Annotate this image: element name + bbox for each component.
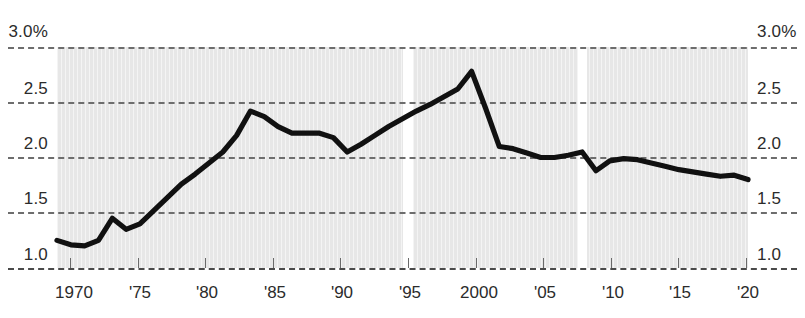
- x-axis-label-2005: '05: [534, 283, 556, 303]
- x-axis-label-2015: '15: [669, 283, 691, 303]
- data-line-value: [57, 71, 748, 246]
- x-axis-label-1970: 1970: [55, 283, 93, 303]
- x-axis-label-1980: '80: [196, 283, 218, 303]
- y-axis-label-right-1.0: 1.0: [757, 245, 781, 265]
- y-axis-label-right-2.0: 2.0: [757, 134, 781, 154]
- data-series-svg: [57, 47, 748, 268]
- x-axis-label-2020: '20: [737, 283, 759, 303]
- y-axis-label-right-2.5: 2.5: [757, 79, 781, 99]
- x-axis-label-2010: '10: [602, 283, 624, 303]
- gridline-1.0: [8, 268, 797, 270]
- y-axis-label-left-1.0: 1.0: [24, 245, 48, 265]
- x-axis-label-2000: 2000: [460, 283, 498, 303]
- x-axis-label-1975: '75: [129, 283, 151, 303]
- y-axis-label-right-1.5: 1.5: [757, 189, 781, 209]
- x-axis-label-1990: '90: [331, 283, 353, 303]
- y-axis-label-left-2.5: 2.5: [24, 79, 48, 99]
- y-axis-label-left-2.0: 2.0: [24, 134, 48, 154]
- x-axis-label-1985: '85: [264, 283, 286, 303]
- y-axis-label-left-1.5: 1.5: [24, 189, 48, 209]
- line-chart: 3.0% 2.5 2.0 1.5 1.0 3.0% 2.5 2.0 1.5 1.…: [0, 0, 805, 318]
- y-axis-label-right-3.0: 3.0%: [757, 22, 797, 42]
- y-axis-label-left-3.0: 3.0%: [8, 22, 48, 42]
- x-axis-label-1995: '95: [399, 283, 421, 303]
